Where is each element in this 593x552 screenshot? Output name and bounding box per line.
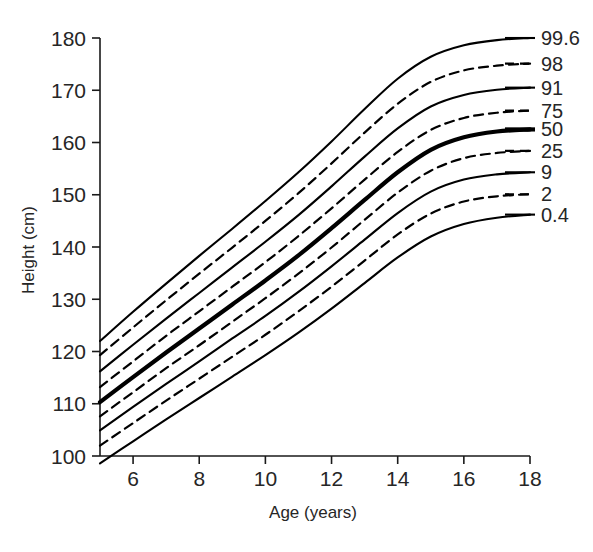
legend-label-98: 98 <box>541 53 563 75</box>
x-tick-label: 16 <box>452 467 475 490</box>
percentile-curve-91 <box>100 88 530 372</box>
x-tick-label: 18 <box>518 467 541 490</box>
y-tick-label: 160 <box>51 131 86 154</box>
y-tick-label: 150 <box>51 183 86 206</box>
x-tick-label: 10 <box>254 467 277 490</box>
growth-chart: 100110120130140150160170180 681012141618… <box>0 0 593 552</box>
y-tick-label: 120 <box>51 340 86 363</box>
percentile-curve-98 <box>100 64 530 356</box>
chart-canvas: 100110120130140150160170180 681012141618… <box>0 0 593 552</box>
percentile-curve-0.4 <box>100 215 530 464</box>
percentile-curve-99.6 <box>100 38 530 341</box>
percentile-curve-25 <box>100 151 530 416</box>
legend-label-99.6: 99.6 <box>541 27 580 49</box>
y-tick-label: 140 <box>51 236 86 259</box>
percentile-curve-50 <box>100 129 530 402</box>
y-tick-label: 180 <box>51 27 86 50</box>
x-tick-label: 8 <box>193 467 205 490</box>
legend-label-25: 25 <box>541 140 563 162</box>
y-axis-ticks <box>92 38 100 456</box>
percentile-curve-75 <box>100 111 530 387</box>
legend-label-0.4: 0.4 <box>541 204 569 226</box>
x-tick-label: 14 <box>386 467 410 490</box>
legend-label-2: 2 <box>541 183 552 205</box>
legend-label-50: 50 <box>541 118 563 140</box>
y-tick-label: 100 <box>51 445 86 468</box>
legend-label-9: 9 <box>541 161 552 183</box>
percentile-curves <box>100 38 530 463</box>
x-tick-label: 6 <box>127 467 139 490</box>
axes <box>92 38 530 464</box>
y-tick-label: 130 <box>51 288 86 311</box>
x-tick-label: 12 <box>320 467 343 490</box>
legend-label-91: 91 <box>541 77 563 99</box>
percentile-legend: 99.69891755025920.4 <box>505 27 580 226</box>
x-axis-title: Age (years) <box>269 503 357 522</box>
y-tick-label: 110 <box>53 392 86 415</box>
y-axis-tick-labels: 100110120130140150160170180 <box>51 27 86 468</box>
y-tick-label: 170 <box>51 79 86 102</box>
x-axis-tick-labels: 681012141618 <box>127 467 541 490</box>
x-axis-ticks <box>133 456 530 464</box>
y-axis-title: Height (cm) <box>19 206 38 294</box>
